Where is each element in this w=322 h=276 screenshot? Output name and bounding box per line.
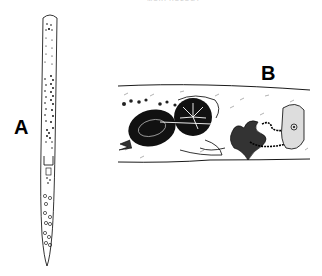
section-drawing-b bbox=[0, 0, 322, 276]
